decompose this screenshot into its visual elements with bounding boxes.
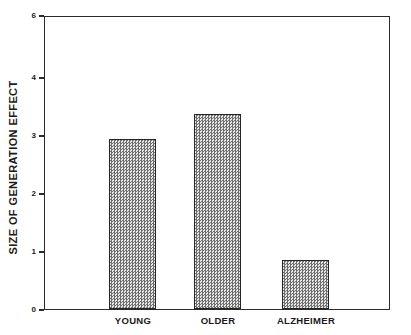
- bar-chart-figure: SIZE OF GENERATION EFFECT 6 4 3 2 1 0 YO…: [0, 0, 411, 335]
- y-tick-label: 3: [32, 130, 36, 142]
- y-tick-label: 1: [32, 246, 36, 258]
- x-label-young: YOUNG: [115, 315, 151, 326]
- bar-young: [109, 139, 156, 309]
- bar-older: [194, 114, 241, 309]
- y-tick-label: 6: [32, 10, 36, 22]
- y-tick-label: 4: [32, 72, 36, 84]
- y-tick-label: 2: [32, 188, 36, 200]
- x-label-older: OLDER: [201, 315, 236, 326]
- y-axis-title: SIZE OF GENERATION EFFECT: [0, 0, 26, 335]
- x-label-alzheimer: ALZHEIMER: [277, 315, 335, 326]
- bar-alzheimer: [282, 260, 329, 309]
- plot-area: [44, 16, 390, 310]
- y-tick-label: 0: [32, 304, 36, 316]
